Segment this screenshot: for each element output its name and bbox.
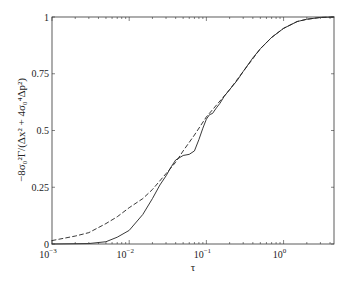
solid-curve (52, 17, 334, 244)
x-tick-label: 10−1 (194, 247, 212, 260)
x-tick-label: 10−3 (39, 247, 57, 260)
y-axis-label: −8σ₀²Γ/(Δx² + 4σ₀⁴Δp²) (15, 78, 28, 182)
axis-ticks (52, 17, 334, 244)
x-tick-label: 10−2 (116, 247, 134, 260)
line-chart: 00.250.50.751 10−310−210−1100 τ −8σ₀²Γ/(… (0, 0, 350, 284)
curves (52, 17, 334, 244)
y-tick-label: 1 (44, 12, 49, 23)
y-tick-label: 0.75 (32, 68, 50, 79)
x-tick-label: 100 (273, 247, 287, 260)
y-tick-label: 0 (44, 239, 49, 250)
y-tick-label: 0.5 (37, 125, 50, 136)
dashed-curve (52, 17, 334, 241)
y-tick-labels: 00.250.50.751 (32, 12, 50, 250)
y-tick-label: 0.25 (32, 182, 50, 193)
x-tick-labels: 10−310−210−1100 (39, 247, 287, 260)
axes-box (52, 17, 334, 244)
x-axis-label: τ (191, 261, 196, 273)
